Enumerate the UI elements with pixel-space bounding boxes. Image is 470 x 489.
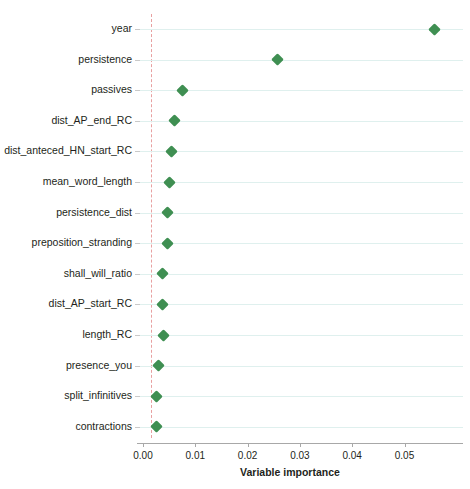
y-axis-tick <box>135 304 140 305</box>
data-point-marker[interactable] <box>169 114 182 127</box>
gridline <box>140 182 463 183</box>
y-axis-tick <box>135 121 140 122</box>
data-point-marker[interactable] <box>161 206 174 219</box>
data-point-marker[interactable] <box>165 145 178 158</box>
x-axis-tick-label: 0.02 <box>238 450 257 461</box>
y-axis-label: dist_AP_end_RC <box>0 115 132 126</box>
x-axis-title: Variable importance <box>0 466 470 478</box>
y-axis-tick <box>135 90 140 91</box>
y-axis-label: year <box>0 23 132 34</box>
gridline <box>140 121 463 122</box>
gridline <box>140 335 463 336</box>
y-axis-label: presence_you <box>0 360 132 371</box>
x-axis-tick <box>352 443 353 447</box>
y-axis-label: dist_anteced_HN_start_RC <box>0 145 132 156</box>
y-axis-label: preposition_stranding <box>0 237 132 248</box>
x-axis-tick <box>248 443 249 447</box>
x-axis-tick-label: 0.03 <box>290 450 309 461</box>
y-axis-label: split_infinitives <box>0 390 132 401</box>
y-axis-tick <box>135 243 140 244</box>
data-point-marker[interactable] <box>428 23 441 36</box>
gridline <box>140 366 463 367</box>
y-axis-tick <box>135 29 140 30</box>
gridline <box>140 396 463 397</box>
y-axis-label: dist_AP_start_RC <box>0 298 132 309</box>
data-point-marker[interactable] <box>158 329 171 342</box>
y-axis-label: shall_will_ratio <box>0 268 132 279</box>
x-axis-tick <box>143 443 144 447</box>
y-axis-tick <box>135 151 140 152</box>
data-point-marker[interactable] <box>161 237 174 250</box>
x-axis-tick-label: 0.04 <box>342 450 361 461</box>
x-axis-tick-label: 0.00 <box>133 450 152 461</box>
y-axis-label: passives <box>0 84 132 95</box>
y-axis-tick <box>135 213 140 214</box>
y-axis-tick <box>135 335 140 336</box>
data-point-marker[interactable] <box>163 176 176 189</box>
y-axis-label: contractions <box>0 421 132 432</box>
zero-reference-line <box>151 14 152 438</box>
gridline <box>140 304 463 305</box>
x-axis-tick <box>405 443 406 447</box>
y-axis-label: length_RC <box>0 329 132 340</box>
gridline <box>140 243 463 244</box>
data-point-marker[interactable] <box>156 267 169 280</box>
data-point-marker[interactable] <box>176 84 189 97</box>
x-axis-tick-label: 0.05 <box>395 450 414 461</box>
gridline <box>140 274 463 275</box>
data-point-marker[interactable] <box>156 298 169 311</box>
y-axis-label: persistence_dist <box>0 207 132 218</box>
x-axis-tick <box>195 443 196 447</box>
y-axis-tick <box>135 366 140 367</box>
y-axis-tick <box>135 182 140 183</box>
gridline <box>140 29 463 30</box>
gridline <box>140 213 463 214</box>
gridline <box>140 427 463 428</box>
data-point-marker[interactable] <box>272 53 285 66</box>
y-axis-label: mean_word_length <box>0 176 132 187</box>
x-axis-tick-label: 0.01 <box>186 450 205 461</box>
y-axis-label: persistence <box>0 54 132 65</box>
variable-importance-chart: yearpersistencepassivesdist_AP_end_RCdis… <box>0 0 470 489</box>
gridline <box>140 151 463 152</box>
y-axis-tick <box>135 396 140 397</box>
data-point-marker[interactable] <box>152 359 165 372</box>
x-axis-tick <box>300 443 301 447</box>
y-axis-tick <box>135 274 140 275</box>
y-axis-tick <box>135 60 140 61</box>
gridline <box>140 60 463 61</box>
y-axis-tick <box>135 427 140 428</box>
